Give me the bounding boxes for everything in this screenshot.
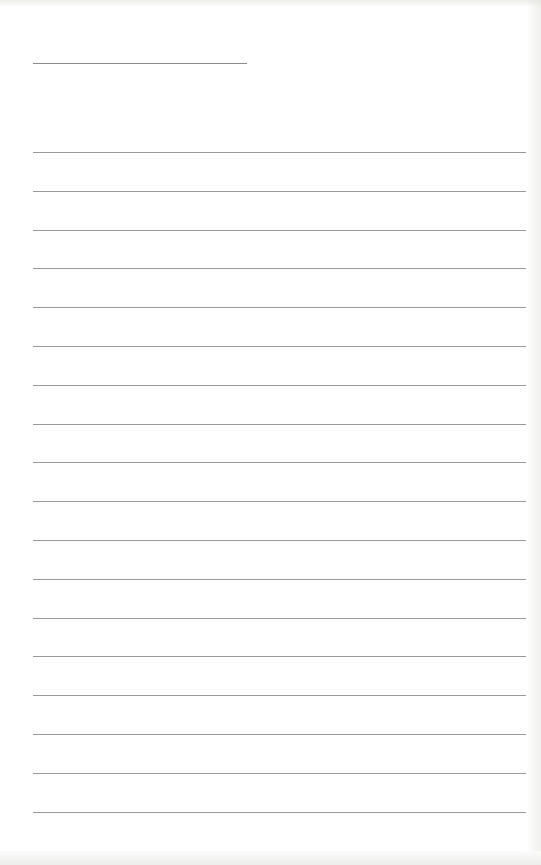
title-line — [33, 63, 247, 64]
ruled-line — [33, 656, 526, 657]
page-bottom-edge — [0, 851, 541, 865]
ruled-line — [33, 346, 526, 347]
ruled-line — [33, 424, 526, 425]
ruled-line — [33, 268, 526, 269]
ruled-line — [33, 191, 526, 192]
page-right-shadow — [527, 0, 541, 865]
ruled-line — [33, 152, 526, 153]
ruled-line — [33, 695, 526, 696]
ruled-line — [33, 385, 526, 386]
ruled-line — [33, 618, 526, 619]
ruled-line — [33, 579, 526, 580]
ruled-line — [33, 462, 526, 463]
ruled-line — [33, 540, 526, 541]
ruled-line — [33, 734, 526, 735]
ruled-line — [33, 230, 526, 231]
ruled-line — [33, 773, 526, 774]
ruled-line — [33, 307, 526, 308]
ruled-line — [33, 501, 526, 502]
page-top-edge — [0, 0, 541, 6]
ruled-line — [33, 812, 526, 813]
